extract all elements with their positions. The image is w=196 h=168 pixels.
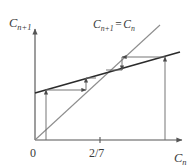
origin-label: 0 [30, 146, 36, 160]
x-tick-label-2-7: 2/7 [89, 146, 104, 160]
map-line [35, 52, 180, 93]
cobweb-right-branch [106, 57, 165, 140]
identity-label-op: = [115, 18, 122, 30]
identity-line-label: Cn+1=Cn [93, 18, 135, 33]
cobweb-diagram-figure: Cn+1 Cn 0 2/7 Cn+1=Cn [0, 0, 196, 168]
plot-svg: Cn+1 Cn 0 2/7 Cn+1=Cn [0, 0, 196, 168]
y-axis-label: Cn+1 [9, 16, 32, 32]
identity-line-group [36, 25, 161, 140]
identity-label-sub1: n+1 [101, 24, 114, 33]
map-line-group [35, 52, 180, 93]
x-axis-label: Cn [174, 151, 187, 167]
x-tick-label-text: 2/7 [89, 146, 104, 160]
identity-line [36, 25, 161, 140]
y-axis-label-sub: n+1 [17, 22, 31, 32]
identity-label-sub2: n [131, 24, 135, 33]
x-axis-label-sub: n [182, 157, 186, 167]
origin-label-text: 0 [30, 146, 36, 160]
